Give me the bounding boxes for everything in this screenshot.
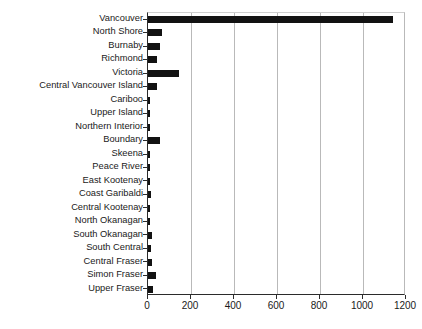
bar-row <box>148 175 404 188</box>
y-tick-label: North Okanagan <box>0 214 143 227</box>
bar <box>148 97 150 104</box>
bar <box>148 110 150 117</box>
bar-row <box>148 67 404 80</box>
bar-row <box>148 107 404 120</box>
bar-row <box>148 13 404 26</box>
bar-row <box>148 242 404 255</box>
bar <box>148 286 153 293</box>
y-axis-category-labels: VancouverNorth ShoreBurnabyRichmondVicto… <box>0 12 143 295</box>
y-tick-label: Central Kootenay <box>0 201 143 214</box>
y-tick-label: Richmond <box>0 52 143 65</box>
x-tick-mark-400 <box>233 295 234 299</box>
bar-row <box>148 188 404 201</box>
bar <box>148 191 151 198</box>
bar <box>148 124 150 131</box>
bar-row <box>148 256 404 269</box>
x-tick-mark-1200 <box>405 295 406 299</box>
x-tick-mark-200 <box>190 295 191 299</box>
bar-row <box>148 148 404 161</box>
x-tick-mark-1000 <box>362 295 363 299</box>
y-tick-label: East Kootenay <box>0 174 143 187</box>
bar <box>148 272 156 279</box>
y-tick-label: Central Vancouver Island <box>0 79 143 92</box>
bar-row <box>148 202 404 215</box>
y-tick-label: South Central <box>0 241 143 254</box>
x-tick-label: 1000 <box>351 300 373 312</box>
bar-row <box>148 40 404 53</box>
bar-row <box>148 26 404 39</box>
bar <box>148 56 157 63</box>
bar-row <box>148 94 404 107</box>
y-tick-label: Boundary <box>0 133 143 146</box>
x-tick-label: 1200 <box>394 300 416 312</box>
bar <box>148 259 152 266</box>
x-tick-mark-600 <box>276 295 277 299</box>
bar-row <box>148 161 404 174</box>
y-tick-label: Vancouver <box>0 12 143 25</box>
bar <box>148 16 393 23</box>
bar-row <box>148 53 404 66</box>
y-tick-label: Victoria <box>0 66 143 79</box>
x-tick-mark-800 <box>319 295 320 299</box>
y-tick-label: Upper Fraser <box>0 282 143 295</box>
bar <box>148 29 162 36</box>
bar <box>148 205 150 212</box>
bar-row <box>148 215 404 228</box>
bar <box>148 70 179 77</box>
bar <box>148 137 160 144</box>
bar-row <box>148 121 404 134</box>
y-tick-label: Northern Interior <box>0 120 143 133</box>
bar-row <box>148 283 404 296</box>
bar-rows <box>148 13 404 294</box>
bar <box>148 164 150 171</box>
y-tick-label: Cariboo <box>0 93 143 106</box>
y-tick-label: Burnaby <box>0 39 143 52</box>
y-tick-label: Peace River <box>0 160 143 173</box>
bar <box>148 178 150 185</box>
bar-row <box>148 80 404 93</box>
bar <box>148 218 150 225</box>
y-tick-label: North Shore <box>0 25 143 38</box>
bar <box>148 151 150 158</box>
bar <box>148 245 151 252</box>
y-tick-label: Coast Garibaldi <box>0 187 143 200</box>
bar-row <box>148 134 404 147</box>
x-tick-mark-0 <box>147 295 148 299</box>
bar-row <box>148 269 404 282</box>
bar <box>148 43 160 50</box>
x-axis: 020040060080010001200 <box>147 295 405 325</box>
x-tick-label: 800 <box>311 300 328 312</box>
chart-title <box>0 0 422 3</box>
x-tick-label: 200 <box>182 300 199 312</box>
bar-row <box>148 229 404 242</box>
y-tick-label: Simon Fraser <box>0 268 143 281</box>
x-tick-label: 400 <box>225 300 242 312</box>
bar <box>148 232 152 239</box>
y-tick-label: Upper Island <box>0 106 143 119</box>
x-tick-label: 0 <box>144 300 150 312</box>
y-tick-label: Skeena <box>0 147 143 160</box>
plot-area <box>147 12 405 295</box>
y-tick-label: South Okanagan <box>0 228 143 241</box>
bar <box>148 83 157 90</box>
bar-chart-figure: VancouverNorth ShoreBurnabyRichmondVicto… <box>0 0 422 329</box>
y-tick-label: Central Fraser <box>0 255 143 268</box>
x-tick-label: 600 <box>268 300 285 312</box>
